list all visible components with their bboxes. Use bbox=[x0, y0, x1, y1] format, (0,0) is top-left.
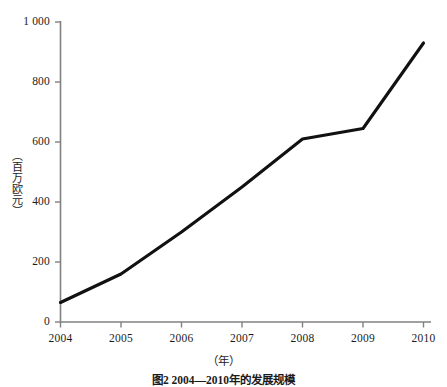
y-tick-label-200: 200 bbox=[0, 256, 50, 268]
y-axis-ticks bbox=[55, 22, 61, 322]
x-axis-title: （年） bbox=[0, 352, 447, 368]
data-series-line bbox=[61, 43, 424, 303]
x-axis-ticks bbox=[61, 322, 424, 328]
x-tick-label-2010: 2010 bbox=[394, 333, 447, 345]
y-tick-label-1000: 1 000 bbox=[0, 16, 50, 28]
y-axis-title: （百万欧元） bbox=[4, 150, 22, 216]
x-tick-label-2009: 2009 bbox=[333, 333, 393, 345]
y-tick-label-0: 0 bbox=[0, 316, 50, 328]
x-tick-label-2007: 2007 bbox=[212, 333, 272, 345]
y-tick-label-800: 800 bbox=[0, 76, 50, 88]
x-tick-label-2005: 2005 bbox=[91, 333, 151, 345]
x-tick-label-2006: 2006 bbox=[152, 333, 212, 345]
figure-caption: 图2 2004—2010年的发展规模 bbox=[0, 371, 447, 387]
x-tick-label-2008: 2008 bbox=[273, 333, 333, 345]
x-tick-label-2004: 2004 bbox=[31, 333, 91, 345]
y-tick-label-600: 600 bbox=[0, 136, 50, 148]
